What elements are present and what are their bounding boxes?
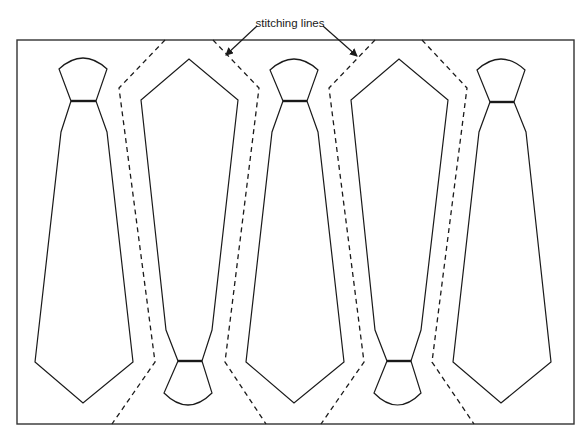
ties-group (35, 58, 551, 405)
tie-knot (164, 361, 212, 405)
tie-blade (35, 101, 133, 403)
tie-blade (351, 59, 448, 361)
tie-5 (453, 59, 551, 403)
tie-pattern-diagram: stitching lines (0, 0, 586, 436)
tie-2 (141, 59, 238, 405)
tie-blade (141, 59, 238, 361)
tie-1 (35, 58, 133, 403)
annotation-arrows (226, 26, 357, 56)
annotation: stitching lines (226, 17, 357, 56)
stitching-lines-label: stitching lines (255, 17, 324, 29)
tie-knot (270, 59, 318, 101)
tie-knot (374, 361, 421, 405)
arrow-pointer-2 (323, 26, 357, 56)
tie-knot (59, 58, 107, 101)
tie-blade (246, 101, 344, 403)
tie-3 (246, 59, 344, 403)
tie-blade (453, 102, 551, 403)
diagram-canvas: stitching lines (0, 0, 586, 436)
tie-knot (477, 59, 525, 102)
